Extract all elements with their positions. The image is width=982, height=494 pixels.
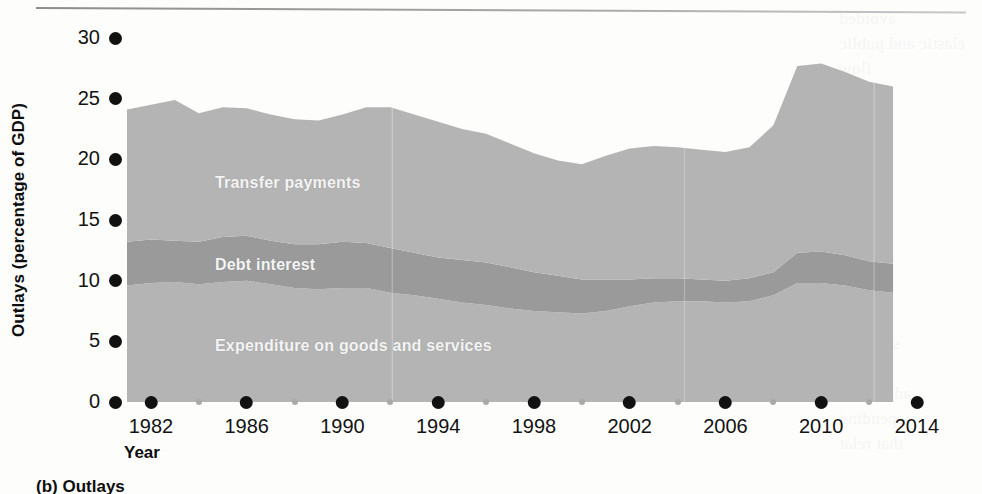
x-minor-tick-dot xyxy=(196,399,202,405)
x-tick-label: 2002 xyxy=(607,416,652,436)
y-tick-label: 0 xyxy=(89,391,100,411)
x-axis: 198219861990199419982002200620102014 xyxy=(127,396,917,452)
x-axis-title: Year xyxy=(124,443,160,463)
x-minor-tick-1984 xyxy=(196,396,202,409)
x-tick-dot xyxy=(336,396,349,409)
x-minor-tick-1992 xyxy=(387,396,393,409)
x-tick-1982: 1982 xyxy=(129,396,174,436)
x-minor-tick-1988 xyxy=(292,396,298,409)
y-tick-dot xyxy=(109,335,122,348)
scan-seam-2 xyxy=(874,38,875,402)
x-tick-dot xyxy=(815,396,828,409)
x-tick-dot xyxy=(527,396,540,409)
x-tick-dot xyxy=(719,396,732,409)
x-minor-tick-dot xyxy=(387,399,393,405)
x-minor-tick-2000 xyxy=(579,396,585,409)
x-tick-dot xyxy=(911,396,924,409)
y-tick-label: 25 xyxy=(78,88,100,108)
y-axis-title: Outlays (percentage of GDP) xyxy=(6,38,32,402)
y-tick-dot xyxy=(109,214,122,227)
figure-caption: (b) Outlays xyxy=(36,477,125,494)
x-tick-dot xyxy=(144,396,157,409)
x-tick-2002: 2002 xyxy=(607,396,652,436)
x-tick-dot xyxy=(240,396,253,409)
x-tick-label: 1998 xyxy=(512,416,557,436)
x-tick-1990: 1990 xyxy=(320,396,365,436)
x-minor-tick-dot xyxy=(483,399,489,405)
x-tick-label: 2010 xyxy=(799,416,844,436)
x-minor-tick-dot xyxy=(292,399,298,405)
x-tick-label: 2014 xyxy=(895,416,940,436)
y-tick-dot xyxy=(109,396,122,409)
y-tick-label: 15 xyxy=(78,209,100,229)
x-tick-label: 2006 xyxy=(703,416,748,436)
x-minor-tick-2012 xyxy=(866,396,872,409)
figure-page: avoided elastic and public flow come and… xyxy=(0,0,982,494)
x-minor-tick-dot xyxy=(579,399,585,405)
outlays-stacked-area-chart: Outlays (percentage of GDP) 051015202530… xyxy=(0,0,982,494)
y-tick-label: 30 xyxy=(78,27,100,47)
x-tick-2006: 2006 xyxy=(703,396,748,436)
x-minor-tick-1996 xyxy=(483,396,489,409)
series-label-transfer-payments: Transfer payments xyxy=(215,174,361,192)
series-label-expenditure-on-goods-and-services: Expenditure on goods and services xyxy=(215,337,492,355)
x-tick-1998: 1998 xyxy=(512,396,557,436)
series-label-debt-interest: Debt interest xyxy=(215,256,315,274)
x-tick-label: 1982 xyxy=(129,416,174,436)
x-minor-tick-2008 xyxy=(770,396,776,409)
y-tick-label: 5 xyxy=(89,330,100,350)
x-tick-label: 1990 xyxy=(320,416,365,436)
x-minor-tick-dot xyxy=(866,399,872,405)
y-tick-label: 10 xyxy=(78,270,100,290)
y-axis-title-text: Outlays (percentage of GDP) xyxy=(9,103,29,337)
x-tick-dot xyxy=(432,396,445,409)
y-axis: 051015202530 xyxy=(60,38,122,402)
x-tick-dot xyxy=(623,396,636,409)
x-tick-1986: 1986 xyxy=(224,396,269,436)
y-tick-dot xyxy=(109,92,122,105)
y-tick-dot xyxy=(109,32,122,45)
y-tick-label: 20 xyxy=(78,148,100,168)
x-minor-tick-dot xyxy=(770,399,776,405)
x-tick-label: 1994 xyxy=(416,416,461,436)
x-tick-1994: 1994 xyxy=(416,396,461,436)
y-tick-dot xyxy=(109,153,122,166)
x-minor-tick-dot xyxy=(675,399,681,405)
y-tick-dot xyxy=(109,274,122,287)
x-tick-2010: 2010 xyxy=(799,396,844,436)
x-minor-tick-2004 xyxy=(675,396,681,409)
x-tick-label: 1986 xyxy=(224,416,269,436)
scan-seam-1 xyxy=(684,38,685,402)
x-tick-2014: 2014 xyxy=(895,396,940,436)
